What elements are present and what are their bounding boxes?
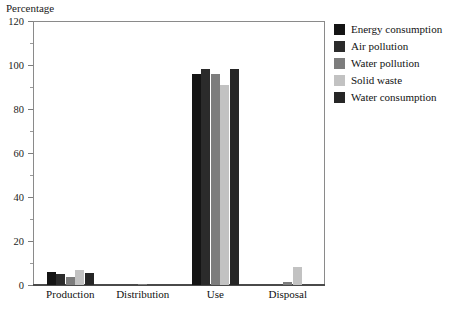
bar (192, 74, 201, 285)
bar-group (264, 21, 312, 285)
chart-title: Percentage (6, 2, 54, 14)
bar (66, 277, 75, 285)
bar (293, 267, 302, 285)
bar (220, 85, 229, 285)
bar-group (47, 21, 95, 285)
y-axis-tick-label: 0 (19, 280, 24, 291)
y-axis-major-tick (28, 197, 33, 198)
legend-swatch-icon (334, 58, 345, 69)
bar-group (119, 21, 167, 285)
y-axis-major-tick (28, 65, 33, 66)
y-axis-minor-tick (30, 131, 33, 132)
x-axis-tick-label: Disposal (269, 288, 308, 300)
bar (230, 69, 239, 285)
bar (75, 270, 84, 285)
x-axis-tick-label: Distribution (116, 288, 169, 300)
legend-item: Water pollution (334, 55, 456, 71)
y-axis: 020406080100120 (0, 21, 31, 285)
y-axis-tick-label: 120 (8, 16, 24, 27)
legend-item-label: Water consumption (351, 91, 437, 103)
y-axis-tick-label: 20 (14, 236, 25, 247)
y-axis-minor-tick (30, 219, 33, 220)
legend-item-label: Solid waste (351, 74, 402, 86)
legend-item: Energy consumption (334, 21, 456, 37)
y-axis-major-tick (28, 241, 33, 242)
legend-item: Air pollution (334, 38, 456, 54)
bar (47, 272, 56, 285)
legend-item-label: Air pollution (351, 40, 408, 52)
legend-item-label: Energy consumption (351, 23, 442, 35)
y-axis-major-tick (28, 285, 33, 286)
y-axis-tick-label: 40 (14, 192, 25, 203)
legend-swatch-icon (334, 92, 345, 103)
y-axis-minor-tick (30, 175, 33, 176)
y-axis-tick-label: 60 (14, 148, 25, 159)
bar (211, 74, 220, 285)
y-axis-tick-label: 100 (8, 60, 24, 71)
y-axis-major-tick (28, 153, 33, 154)
legend-item: Water consumption (334, 89, 456, 105)
legend-item-label: Water pollution (351, 57, 419, 69)
bar (56, 274, 65, 285)
y-axis-minor-tick (30, 43, 33, 44)
legend: Energy consumptionAir pollutionWater pol… (334, 21, 456, 106)
y-axis-major-tick (28, 21, 33, 22)
chart-screenshot: Percentage 020406080100120 ProductionDis… (0, 0, 457, 313)
bar (85, 273, 94, 285)
bar (138, 284, 147, 285)
legend-item: Solid waste (334, 72, 456, 88)
x-axis-tick-label: Production (46, 288, 94, 300)
x-axis: ProductionDistributionUseDisposal (34, 288, 324, 304)
y-axis-tick-label: 80 (14, 104, 25, 115)
legend-swatch-icon (334, 41, 345, 52)
legend-swatch-icon (334, 75, 345, 86)
x-axis-tick-label: Use (207, 288, 224, 300)
bar (201, 69, 210, 285)
bars-layer (34, 21, 324, 285)
y-axis-major-tick (28, 109, 33, 110)
y-axis-minor-tick (30, 87, 33, 88)
legend-swatch-icon (334, 24, 345, 35)
bar (283, 282, 292, 285)
y-axis-minor-tick (30, 263, 33, 264)
bar-group (192, 21, 240, 285)
